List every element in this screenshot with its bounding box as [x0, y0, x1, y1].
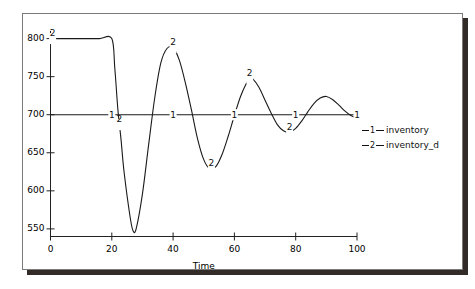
x-tick-label: 80	[276, 244, 316, 254]
legend-marker-2-icon: 2	[362, 139, 384, 151]
x-tick-label: 100	[337, 244, 377, 254]
curve-point-marker: 2	[117, 114, 123, 124]
y-tick-label: 650	[3, 147, 45, 157]
curve-point-marker: 1	[109, 110, 115, 120]
legend-marker-number: 2	[369, 140, 376, 151]
legend-label: inventory_d	[386, 140, 439, 150]
x-tick-label: 20	[92, 244, 132, 254]
y-tick-label: 550	[3, 223, 45, 233]
curve-point-marker: 2	[287, 122, 293, 132]
x-tick-label: 0	[31, 244, 71, 254]
y-tick-label: 600	[3, 185, 45, 195]
y-tick-label: 750	[3, 71, 45, 81]
legend-item-inventory-d[interactable]: 2 inventory_d	[362, 137, 439, 152]
y-tick-label: 800	[3, 33, 45, 43]
series-line-inventory-d	[51, 36, 358, 232]
x-tick-label: 60	[214, 244, 254, 254]
curve-point-marker: 1	[293, 110, 299, 120]
legend-label: inventory	[386, 125, 429, 135]
legend-marker-number: 1	[369, 125, 376, 136]
curve-point-marker: 2	[247, 68, 253, 78]
curve-point-marker: 1	[354, 110, 360, 120]
x-tick-label: 40	[153, 244, 193, 254]
legend-item-inventory[interactable]: 1 inventory	[362, 122, 439, 137]
legend: 1 inventory 2 inventory_d	[362, 122, 439, 152]
curve-point-marker: 2	[170, 37, 176, 47]
x-axis-title: Time	[164, 261, 244, 271]
curve-point-marker: 2	[50, 28, 56, 38]
curve-point-marker: 1	[170, 110, 176, 120]
y-tick-label: 700	[3, 109, 45, 119]
curve-point-marker: 1	[232, 110, 238, 120]
legend-marker-1-icon: 1	[362, 124, 384, 136]
chart-screenshot: 11111 222222 550600650700750800 02040608…	[0, 0, 475, 289]
series-markers-inventory-d: 222222	[49, 28, 293, 174]
curve-point-marker: 2	[209, 158, 215, 168]
